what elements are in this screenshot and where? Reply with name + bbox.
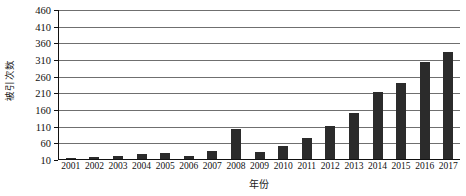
x-tick-label-2013: 2013 <box>342 161 366 175</box>
bar-slot <box>413 10 437 159</box>
x-tick-label-2014: 2014 <box>366 161 390 175</box>
x-tick-label-2015: 2015 <box>389 161 413 175</box>
x-tick-label-2016: 2016 <box>413 161 437 175</box>
bar-2008[interactable] <box>231 129 241 159</box>
bar-slot <box>59 10 83 159</box>
y-tick-label: 460 <box>35 5 51 16</box>
x-tick-label-2005: 2005 <box>153 161 177 175</box>
y-tick-label: 160 <box>35 105 51 116</box>
bar-2014[interactable] <box>373 92 383 159</box>
x-tick-label-2012: 2012 <box>319 161 343 175</box>
bars-layer <box>59 10 460 159</box>
y-tick-label: 310 <box>35 55 51 66</box>
y-tick-label: 210 <box>35 88 51 99</box>
bar-slot <box>437 10 461 159</box>
bar-slot <box>177 10 201 159</box>
y-axis-tick-labels: 1060110160210260310360410460 <box>18 10 54 160</box>
x-tick-label-2004: 2004 <box>130 161 154 175</box>
x-tick-label-2010: 2010 <box>271 161 295 175</box>
x-axis-tick-labels: 2001200220032004200520062007200820092010… <box>59 161 460 175</box>
x-axis-title: 年份 <box>58 176 460 191</box>
bar-2016[interactable] <box>420 62 430 159</box>
bar-2013[interactable] <box>349 113 359 159</box>
y-tick-label: 360 <box>35 38 51 49</box>
x-tick-label-2011: 2011 <box>295 161 319 175</box>
x-tick-label-2017: 2017 <box>437 161 461 175</box>
bar-slot <box>201 10 225 159</box>
citation-bar-chart: 被引次数 1060110160210260310360410460 200120… <box>0 0 466 196</box>
bar-2009[interactable] <box>255 152 265 159</box>
y-tick-mark <box>54 160 58 161</box>
bar-2005[interactable] <box>160 153 170 159</box>
x-tick-label-2006: 2006 <box>177 161 201 175</box>
bar-2007[interactable] <box>207 151 217 159</box>
bar-2003[interactable] <box>113 156 123 159</box>
bar-slot <box>366 10 390 159</box>
bar-2017[interactable] <box>443 52 453 159</box>
bar-slot <box>83 10 107 159</box>
bar-slot <box>319 10 343 159</box>
x-tick-label-2003: 2003 <box>106 161 130 175</box>
bar-2006[interactable] <box>184 156 194 159</box>
plot-area <box>58 10 460 160</box>
bar-slot <box>342 10 366 159</box>
bar-slot <box>295 10 319 159</box>
bar-2002[interactable] <box>89 157 99 159</box>
y-tick-label: 10 <box>41 155 52 166</box>
bar-2004[interactable] <box>137 154 147 159</box>
x-tick-label-2008: 2008 <box>224 161 248 175</box>
bar-slot <box>389 10 413 159</box>
bar-2001[interactable] <box>66 158 76 160</box>
bar-2015[interactable] <box>396 83 406 159</box>
y-tick-label: 60 <box>41 138 52 149</box>
x-tick-label-2001: 2001 <box>59 161 83 175</box>
bar-2012[interactable] <box>325 126 335 159</box>
bar-2011[interactable] <box>302 138 312 159</box>
x-axis-line <box>58 159 460 160</box>
bar-slot <box>106 10 130 159</box>
bar-slot <box>130 10 154 159</box>
y-tick-label: 260 <box>35 71 51 82</box>
x-tick-label-2002: 2002 <box>83 161 107 175</box>
bar-slot <box>248 10 272 159</box>
bar-slot <box>224 10 248 159</box>
bar-2010[interactable] <box>278 146 288 159</box>
y-tick-label: 110 <box>36 121 51 132</box>
y-axis-title-text: 被引次数 <box>2 59 16 101</box>
y-axis-title: 被引次数 <box>0 0 18 160</box>
x-tick-label-2009: 2009 <box>248 161 272 175</box>
x-tick-label-2007: 2007 <box>201 161 225 175</box>
y-tick-label: 410 <box>35 21 51 32</box>
bar-slot <box>271 10 295 159</box>
bar-slot <box>153 10 177 159</box>
